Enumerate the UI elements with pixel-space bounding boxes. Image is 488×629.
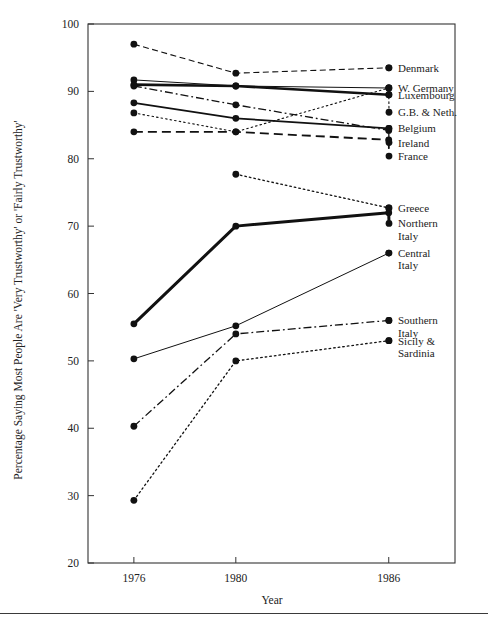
legend-label: Central — [398, 247, 430, 259]
legend-label: Italy — [398, 230, 419, 242]
legend-label: France — [398, 150, 428, 162]
y-tick-label: 70 — [68, 220, 80, 232]
legend-label: Italy — [398, 259, 419, 271]
legend-label: Ireland — [398, 137, 430, 149]
y-tick-label: 50 — [68, 355, 80, 367]
data-point — [130, 423, 137, 430]
figure-container: 2030405060708090100 197619801986 Denmark… — [0, 0, 488, 629]
legend-label: Luxembourg — [398, 89, 455, 101]
data-point — [130, 41, 137, 48]
data-point — [232, 101, 239, 108]
data-point — [130, 128, 137, 135]
x-tick-label: 1986 — [377, 572, 400, 584]
legend-label: Sicily & — [398, 335, 435, 347]
data-point — [232, 223, 239, 230]
data-point — [130, 497, 137, 504]
data-point — [130, 99, 137, 106]
legend-marker — [386, 337, 393, 344]
y-tick-label: 100 — [62, 18, 80, 30]
data-point — [232, 83, 239, 90]
x-tick-label: 1976 — [122, 572, 145, 584]
y-tick-label: 30 — [68, 490, 80, 502]
data-point — [130, 83, 137, 90]
data-point — [232, 322, 239, 329]
legend-marker — [386, 153, 393, 160]
legend-label: Sardinia — [398, 347, 435, 359]
data-point — [232, 128, 239, 135]
data-point — [130, 110, 137, 117]
bottom-horizontal-rule — [0, 613, 488, 614]
data-point — [232, 115, 239, 122]
y-tick-label: 40 — [68, 422, 80, 434]
legend-label: Southern — [398, 314, 438, 326]
data-point — [130, 355, 137, 362]
data-point — [130, 320, 137, 327]
data-point — [232, 357, 239, 364]
y-axis-title: Percentage Saying Most People Are 'Very … — [12, 120, 25, 479]
legend-label: Northern — [398, 217, 438, 229]
legend-label: Greece — [398, 202, 429, 214]
y-tick-label: 80 — [68, 153, 80, 165]
y-tick-label: 20 — [68, 557, 80, 569]
y-tick-label: 60 — [68, 288, 80, 300]
x-axis-title: Year — [261, 594, 282, 606]
legend-marker — [386, 250, 393, 257]
legend-label: Denmark — [398, 62, 439, 74]
legend-marker — [386, 64, 393, 71]
line-chart: 2030405060708090100 197619801986 Denmark… — [0, 0, 488, 629]
data-point — [232, 171, 239, 178]
legend-label: Belgium — [398, 122, 436, 134]
legend-marker — [386, 317, 393, 324]
data-point — [232, 70, 239, 77]
y-tick-label: 90 — [68, 85, 80, 97]
x-tick-label: 1980 — [224, 572, 247, 584]
legend-label: G.B. & Neth. — [398, 106, 457, 118]
data-point — [232, 331, 239, 338]
